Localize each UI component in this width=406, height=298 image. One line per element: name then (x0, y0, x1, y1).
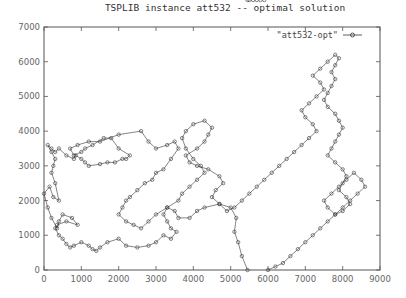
x-tick-label: 7000 (295, 274, 317, 284)
y-tick-label: 4000 (18, 126, 40, 136)
y-tick-label: 7000 (18, 22, 40, 32)
y-tick-label: 0 (35, 265, 40, 275)
y-tick-label: 3000 (18, 161, 40, 171)
x-tick-label: 9000 (369, 274, 391, 284)
y-tick-label: 5000 (18, 91, 40, 101)
x-tick-label: 1000 (71, 274, 93, 284)
x-tick-label: 8000 (332, 274, 354, 284)
x-tick-label: 4000 (183, 274, 205, 284)
y-tick-label: 6000 (18, 57, 40, 67)
x-axis: 0100020003000400050006000700080009000 (41, 27, 391, 284)
x-tick-label: 2000 (108, 274, 130, 284)
tour-path (42, 0, 366, 272)
x-tick-label: 0 (41, 274, 46, 284)
chart-title: TSPLIB instance att532 -- optimal soluti… (105, 2, 345, 13)
x-tick-label: 5000 (220, 274, 242, 284)
x-tick-label: 6000 (257, 274, 279, 284)
y-tick-label: 2000 (18, 196, 40, 206)
legend: "att532-opt" (277, 30, 362, 40)
y-axis: 01000200030004000500060007000 (18, 22, 380, 275)
y-tick-label: 1000 (18, 230, 40, 240)
legend-label: "att532-opt" (277, 30, 338, 40)
x-tick-label: 3000 (145, 274, 167, 284)
tour-chart: TSPLIB instance att532 -- optimal soluti… (0, 0, 406, 298)
